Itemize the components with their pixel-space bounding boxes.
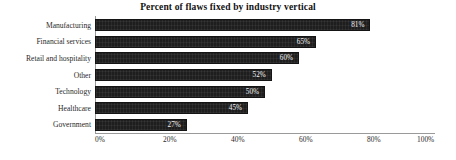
- bar-value-label-4: 50%: [246, 88, 259, 96]
- bar-chart: Percent of flaws fixed by industry verti…: [0, 0, 456, 160]
- x-tick-3: 60%: [299, 135, 313, 144]
- x-tick-5: 100%: [417, 135, 434, 144]
- x-tick-2: 40%: [231, 135, 245, 144]
- bar-row: 65%: [95, 36, 435, 48]
- category-label-6: Government: [0, 120, 91, 129]
- bar-1: 65%: [95, 36, 316, 48]
- bar-row: 81%: [95, 19, 435, 31]
- bar-2: 60%: [95, 52, 299, 64]
- category-label-1: Financial services: [0, 37, 91, 46]
- bar-value-label-5: 45%: [229, 104, 242, 112]
- bar-row: 50%: [95, 86, 435, 98]
- plot-area: 81%65%60%52%50%45%27%: [95, 17, 435, 133]
- bar-4: 50%: [95, 86, 265, 98]
- chart-title: Percent of flaws fixed by industry verti…: [0, 1, 456, 13]
- category-label-3: Other: [0, 71, 91, 80]
- category-label-0: Manufacturing: [0, 21, 91, 30]
- bar-row: 27%: [95, 119, 435, 131]
- bar-row: 45%: [95, 102, 435, 114]
- bar-value-label-6: 27%: [168, 121, 181, 129]
- bar-6: 27%: [95, 119, 187, 131]
- bar-row: 60%: [95, 52, 435, 64]
- bar-3: 52%: [95, 69, 272, 81]
- category-label-2: Retail and hospitality: [0, 54, 91, 63]
- category-label-5: Healthcare: [0, 104, 91, 113]
- x-tick-4: 80%: [367, 135, 381, 144]
- bar-value-label-1: 65%: [297, 38, 310, 46]
- bar-value-label-2: 60%: [280, 54, 293, 62]
- x-axis-tick-labels: 0%20%40%60%80%100%: [95, 134, 435, 148]
- category-label-4: Technology: [0, 87, 91, 96]
- x-tick-1: 20%: [163, 135, 177, 144]
- bar-value-label-0: 81%: [351, 21, 364, 29]
- bar-0: 81%: [95, 19, 370, 31]
- bar-row: 52%: [95, 69, 435, 81]
- bar-value-label-3: 52%: [253, 71, 266, 79]
- x-tick-0: 0%: [95, 135, 105, 144]
- bar-5: 45%: [95, 102, 248, 114]
- category-axis-labels: ManufacturingFinancial servicesRetail an…: [0, 17, 91, 133]
